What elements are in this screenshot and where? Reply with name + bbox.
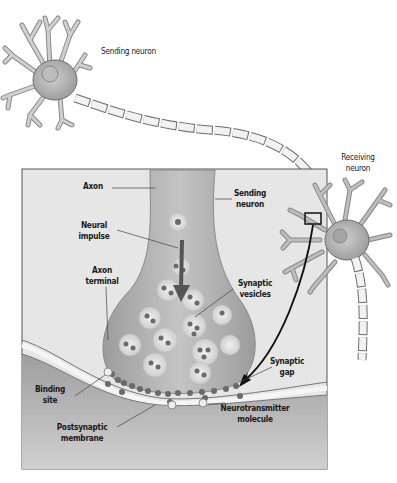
- label-postsynaptic-membrane: Postsynaptic membrane: [56, 422, 108, 444]
- label-receiving-neuron: Receiving neuron: [333, 152, 382, 174]
- label-sending-neuron-inset: Sending neuron: [232, 188, 268, 210]
- label-synaptic-vesicles-line1: Synaptic: [237, 278, 273, 289]
- label-neurotransmitter-line2: molecule: [221, 414, 290, 425]
- label-postsynaptic-line1: Postsynaptic: [56, 422, 108, 433]
- label-synaptic-gap-line2: gap: [269, 367, 305, 378]
- label-axon-terminal-line1: Axon: [84, 265, 120, 276]
- label-postsynaptic-line2: membrane: [56, 433, 108, 444]
- label-binding-site-line2: site: [34, 395, 67, 406]
- label-synaptic-gap: Synaptic gap: [269, 356, 305, 378]
- label-sending-inset-line2: neuron: [232, 199, 268, 210]
- sending-neuron-illustration: [3, 18, 90, 128]
- label-sending-inset-line1: Sending: [232, 188, 268, 199]
- label-synaptic-vesicles-line2: vesicles: [237, 289, 273, 300]
- label-synaptic-gap-line1: Synaptic: [269, 356, 305, 367]
- label-neural-impulse-line1: Neural: [76, 220, 112, 231]
- label-neural-impulse-line2: impulse: [76, 231, 112, 242]
- label-axon: Axon: [79, 181, 107, 192]
- label-receiving-line1: Receiving: [333, 152, 382, 163]
- label-binding-site-line1: Binding: [34, 384, 67, 395]
- synapse-diagram: [0, 0, 397, 483]
- label-neural-impulse: Neural impulse: [76, 220, 112, 242]
- label-binding-site: Binding site: [34, 384, 67, 406]
- label-axon-terminal: Axon terminal: [84, 265, 120, 287]
- label-sending-neuron-top: Sending neuron: [101, 46, 156, 57]
- label-neurotransmitter-line1: Neurotransmitter: [221, 403, 290, 414]
- label-neurotransmitter-molecule: Neurotransmitter molecule: [221, 403, 290, 425]
- label-synaptic-vesicles: Synaptic vesicles: [237, 278, 273, 300]
- label-receiving-line2: neuron: [333, 163, 382, 174]
- label-axon-terminal-line2: terminal: [84, 276, 120, 287]
